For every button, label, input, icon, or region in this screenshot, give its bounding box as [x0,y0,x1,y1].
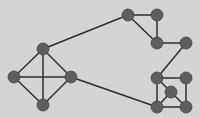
graph-edges [14,15,186,107]
node-H [151,101,163,113]
node-L_bottom [37,99,49,111]
node-A [122,9,134,21]
node-F [180,72,192,84]
network-graph-diagram [0,0,200,118]
node-I [180,101,192,113]
node-L_right [65,71,77,83]
node-G [165,86,177,98]
edge-L_top-A [43,15,128,49]
node-L_left [8,71,20,83]
node-E [151,72,163,84]
node-B [151,9,163,21]
edge-D-E [157,43,186,78]
node-C [151,37,163,49]
node-L_top [37,43,49,55]
edge-L_right-H [71,77,157,107]
node-D [180,37,192,49]
